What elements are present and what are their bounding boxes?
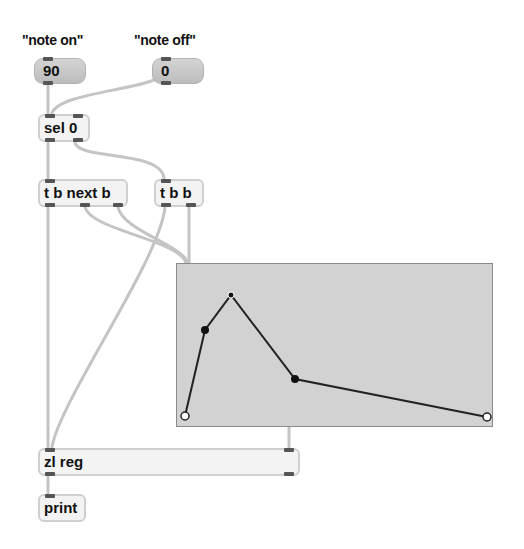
comment-note-off: "note off" (134, 32, 196, 48)
object-sel[interactable]: sel 0 (38, 114, 90, 142)
inlet[interactable] (43, 57, 53, 61)
outlet-left[interactable] (45, 138, 55, 142)
object-sel-label: sel 0 (44, 119, 77, 136)
inlet[interactable] (45, 494, 55, 498)
object-print[interactable]: print (38, 494, 86, 522)
envelope-curve[interactable] (177, 264, 494, 428)
outlet-right[interactable] (186, 203, 196, 207)
inlet-right[interactable] (73, 114, 83, 118)
object-t-b-next-b[interactable]: t b next b (38, 179, 128, 207)
outlet-left[interactable] (45, 472, 55, 476)
outlet[interactable] (161, 81, 171, 85)
object-t-b-b[interactable]: t b b (154, 179, 204, 207)
inlet[interactable] (161, 179, 171, 183)
object-zl-reg[interactable]: zl reg (38, 448, 300, 476)
breakpoint-function-editor[interactable] (176, 263, 493, 427)
outlet-3[interactable] (113, 203, 123, 207)
outlet[interactable] (43, 81, 53, 85)
breakpoint-handle (291, 375, 299, 383)
breakpoint-handle (228, 292, 234, 298)
object-t-b-b-label: t b b (160, 184, 192, 201)
breakpoint-handle (483, 413, 491, 421)
inlet[interactable] (45, 179, 55, 183)
message-0-label: 0 (161, 62, 169, 79)
object-print-label: print (44, 499, 77, 516)
breakpoint-handle (181, 412, 189, 420)
inlet-right[interactable] (284, 448, 294, 452)
outlet-left[interactable] (161, 203, 171, 207)
comment-note-on: "note on" (22, 32, 83, 48)
inlet-left[interactable] (45, 448, 55, 452)
outlet-right[interactable] (284, 472, 294, 476)
outlet-right[interactable] (73, 138, 83, 142)
message-0[interactable]: 0 (152, 58, 204, 84)
message-90[interactable]: 90 (34, 58, 86, 84)
object-zl-reg-label: zl reg (44, 453, 83, 470)
outlet-2[interactable] (80, 203, 90, 207)
inlet-left[interactable] (45, 114, 55, 118)
inlet[interactable] (161, 57, 171, 61)
message-90-label: 90 (43, 62, 60, 79)
breakpoint-handle (201, 326, 209, 334)
patcher-canvas[interactable]: "note on" "note off" 90 0 sel 0 t b next… (0, 0, 524, 549)
outlet-1[interactable] (45, 203, 55, 207)
object-t-b-next-b-label: t b next b (44, 184, 111, 201)
